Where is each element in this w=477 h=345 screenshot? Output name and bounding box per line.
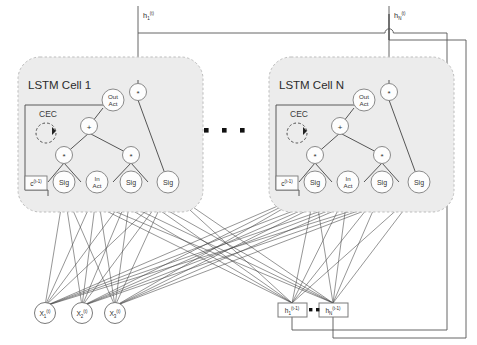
cell-1-output-mult-label: * <box>136 89 139 98</box>
input-layer: X1(t) X2(t) X3(t) <box>35 303 126 324</box>
cell-n-sum-label: + <box>338 123 343 132</box>
cell-1-input-mult-label: * <box>129 152 132 161</box>
cell-1-out-act-line1: Out <box>108 93 118 100</box>
cell-n-out-act-line1: Out <box>359 93 369 100</box>
cell-1-in-act-line1: In <box>94 175 100 182</box>
output-label-h1-group: h1(t) <box>143 11 154 21</box>
output-label-hn-group: hN(t) <box>394 11 406 21</box>
output-stubs <box>138 6 389 40</box>
lstm-cell-n[interactable]: LSTM Cell N CEC * Out Act + * * <box>269 57 454 212</box>
input-node-x1[interactable] <box>35 303 56 324</box>
cell-1-forget-mult-label: * <box>62 152 65 161</box>
cell-1-out-act-line2: Act <box>109 100 118 107</box>
cells-ellipsis <box>204 128 245 133</box>
cell-n-out-act-line2: Act <box>360 100 369 107</box>
cell-1-in-act-line2: Act <box>93 182 102 189</box>
ellipsis-dot-2 <box>222 128 227 133</box>
cell-1-output-gate-label: Sig <box>163 179 173 187</box>
cell-1-input-gate-label: Sig <box>126 179 136 187</box>
cell-n-output-mult-label: * <box>387 89 390 98</box>
cell-n-input-gate-label: Sig <box>377 179 387 187</box>
ellipsis-dot-3 <box>240 128 245 133</box>
cell-n-forget-mult-label: * <box>313 152 316 161</box>
recurrent-ellipsis-dot-1 <box>309 308 312 311</box>
lstm-architecture-diagram: h1(t) hN(t) LSTM Cell 1 <box>0 0 477 345</box>
cec-label-1: CEC <box>39 109 57 119</box>
cell-n-output-gate-label: Sig <box>414 179 424 187</box>
cell-n-label: LSTM Cell N <box>279 79 344 91</box>
input-node-x3[interactable] <box>105 303 126 324</box>
cell-1-forget-gate-label: Sig <box>59 179 69 187</box>
recurrent-ellipsis-dot-2 <box>316 308 319 311</box>
cell-n-input-mult-label: * <box>380 152 383 161</box>
cec-label-n: CEC <box>290 109 308 119</box>
cell-1-label: LSTM Cell 1 <box>28 79 91 91</box>
cell-n-in-act-line2: Act <box>344 182 353 189</box>
cell-n-forget-gate-label: Sig <box>310 179 320 187</box>
cell-n-in-act-line1: In <box>345 175 351 182</box>
lstm-cell-1[interactable]: LSTM Cell 1 CEC * Out A <box>18 57 203 212</box>
input-node-x2[interactable] <box>72 303 93 324</box>
ellipsis-dot-1 <box>204 128 209 133</box>
cell-1-sum-label: + <box>87 123 92 132</box>
diagram-canvas: h1(t) hN(t) LSTM Cell 1 <box>0 0 477 345</box>
output-label-hn: hN(t) <box>394 11 406 21</box>
recurrent-input-layer: h1(t-1) hN(t-1) <box>278 303 348 317</box>
output-label-h1: h1(t) <box>143 11 154 21</box>
